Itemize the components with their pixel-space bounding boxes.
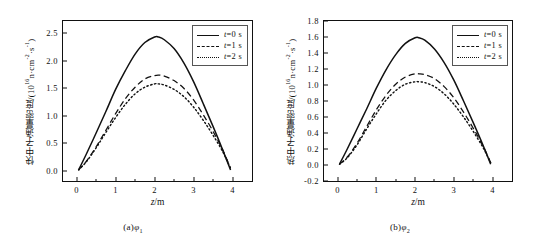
- y-tickmark-b-7: [324, 69, 328, 70]
- y-unit-close-b: ): [287, 39, 297, 42]
- x-minor-tickmark-b: [473, 179, 474, 182]
- x-tick-label-a-0: 0: [74, 181, 79, 195]
- y-tickmark-a-2: [63, 115, 67, 116]
- y-tickmark-b-3: [324, 133, 328, 134]
- x-tick-label-b-4: 4: [490, 181, 495, 195]
- plot-area-b: t=0 s t=1 s t=2 s z/m -0.20.00.20.40.60.…: [323, 20, 513, 182]
- legend-item-t2-b: t=2 s: [457, 51, 502, 62]
- y-tickmark-a-0: [63, 171, 67, 172]
- curve-a-dotted: [79, 84, 231, 170]
- y-axis-label-b: 热中子通量密度/(1016n·cm-2·s-1): [285, 14, 298, 190]
- x-tick-label-b-2: 2: [413, 181, 418, 195]
- legend-value-t2-b: =2 s: [487, 52, 502, 61]
- x-minor-tickmark-a: [135, 179, 136, 182]
- x-tick-label-b-1: 1: [374, 181, 379, 195]
- y-tick-label-b-0: -0.2: [304, 177, 324, 186]
- legend-line-solid-icon-b: [457, 31, 479, 38]
- y-tick-label-a-5: 2.5: [46, 29, 63, 38]
- y-tickmark-b-6: [324, 85, 328, 86]
- y-tick-label-a-4: 2.0: [46, 56, 63, 65]
- legend-line-dotted-icon-a: [197, 53, 219, 60]
- y-unit-rest-a: n·cm: [26, 60, 36, 79]
- y-unit-exp2-a: -2: [24, 54, 30, 59]
- subcaption-b: (b)φ2: [267, 222, 533, 234]
- legend-line-dashed-icon-a: [197, 42, 219, 49]
- y-unit-exp2-b: -2: [285, 54, 291, 59]
- x-minor-tickmark-b: [395, 179, 396, 182]
- x-minor-tickmark-a: [96, 179, 97, 182]
- legend-label-t2-b: t=2 s: [484, 52, 502, 61]
- y-tick-label-b-5: 0.8: [307, 97, 324, 106]
- legend-item-t2-a: t=2 s: [197, 51, 242, 62]
- x-tick-label-a-3: 3: [191, 181, 196, 195]
- legend-label-t2-a: t=2 s: [224, 52, 242, 61]
- x-axis-label-a: z/m: [151, 197, 165, 207]
- x-axis-label-b: z/m: [411, 197, 425, 207]
- legend-label-t1-a: t=1 s: [224, 41, 242, 50]
- y-tick-label-b-3: 0.4: [307, 129, 324, 138]
- subcaption-b-prefix: (b): [390, 222, 401, 232]
- legend-item-t0-b: t=0 s: [457, 29, 502, 40]
- legend-line-dotted-icon-b: [457, 53, 479, 60]
- y-unit-prefix-b: /(10: [287, 85, 297, 100]
- legend-a: t=0 s t=1 s t=2 s: [192, 25, 248, 66]
- y-unit-prefix-a: /(10: [26, 85, 36, 100]
- y-tick-label-b-4: 0.6: [307, 113, 324, 122]
- y-axis-label-a: 快中子通量密度/(1016n·cm-2·s-1): [24, 14, 37, 190]
- y-tickmark-b-5: [324, 101, 328, 102]
- legend-item-t1-b: t=1 s: [457, 40, 502, 51]
- y-tick-label-a-2: 1.0: [46, 112, 63, 121]
- x-tick-label-b-3: 3: [452, 181, 457, 195]
- y-tick-label-a-0: 0.0: [46, 167, 63, 176]
- y-axis-label-b-text: 热中子通量密度: [287, 100, 297, 165]
- chart-panel-b: 热中子通量密度/(1016n·cm-2·s-1) t=0 s t=1 s t=2…: [267, 0, 533, 246]
- y-unit-exp-a: 16: [24, 79, 30, 85]
- y-unit-exp3-a: -1: [24, 42, 30, 47]
- y-tickmark-a-5: [63, 33, 67, 34]
- x-axis-unit-b: /m: [415, 197, 425, 207]
- curve-b-dotted: [340, 82, 491, 165]
- y-tickmark-a-3: [63, 88, 67, 89]
- y-axis-label-a-text: 快中子通量密度: [26, 100, 36, 165]
- x-minor-tickmark-b: [434, 179, 435, 182]
- legend-label-t0-b: t=0 s: [484, 30, 502, 39]
- y-unit-close-a: ): [26, 39, 36, 42]
- y-tick-label-b-7: 1.2: [307, 65, 324, 74]
- y-tick-label-b-1: 0.0: [307, 161, 324, 170]
- x-minor-tickmark-b: [356, 179, 357, 182]
- subcaption-a-sub: 1: [139, 228, 142, 234]
- legend-item-t0-a: t=0 s: [197, 29, 242, 40]
- y-tick-label-b-6: 1.0: [307, 81, 324, 90]
- x-minor-tickmark-a: [213, 179, 214, 182]
- y-unit-rest-b: n·cm: [287, 60, 297, 79]
- y-tick-label-b-10: 1.8: [307, 17, 324, 26]
- legend-label-t1-b: t=1 s: [484, 41, 502, 50]
- y-tickmark-b-8: [324, 53, 328, 54]
- legend-item-t1-a: t=1 s: [197, 40, 242, 51]
- y-tickmark-a-4: [63, 60, 67, 61]
- y-tick-label-b-8: 1.4: [307, 49, 324, 58]
- legend-label-t0-a: t=0 s: [224, 30, 242, 39]
- x-tick-label-a-1: 1: [113, 181, 118, 195]
- y-tickmark-b-9: [324, 37, 328, 38]
- y-tickmark-b-10: [324, 21, 328, 22]
- x-tick-label-b-0: 0: [335, 181, 340, 195]
- figure-root: 快中子通量密度/(1016n·cm-2·s-1) t=0 s t=1 s t=2…: [0, 0, 533, 246]
- y-tickmark-b-4: [324, 117, 328, 118]
- y-tickmark-b-2: [324, 149, 328, 150]
- legend-b: t=0 s t=1 s t=2 s: [452, 25, 508, 66]
- x-tick-label-a-4: 4: [230, 181, 235, 195]
- y-tickmark-b-1: [324, 165, 328, 166]
- legend-value-t1-b: =1 s: [487, 41, 502, 50]
- legend-value-t0-a: =0 s: [227, 30, 242, 39]
- legend-value-t1-a: =1 s: [227, 41, 242, 50]
- x-axis-unit-a: /m: [154, 197, 164, 207]
- plot-area-a: t=0 s t=1 s t=2 s z/m 0.00.51.01.52.02.5…: [62, 20, 253, 182]
- x-tick-label-a-2: 2: [152, 181, 157, 195]
- y-unit-rest2-b: ·s: [287, 47, 297, 54]
- legend-value-t2-a: =2 s: [227, 52, 242, 61]
- subcaption-a-prefix: (a): [123, 222, 134, 232]
- x-minor-tickmark-a: [174, 179, 175, 182]
- subcaption-b-sub: 2: [407, 228, 410, 234]
- chart-panel-a: 快中子通量密度/(1016n·cm-2·s-1) t=0 s t=1 s t=2…: [0, 0, 266, 246]
